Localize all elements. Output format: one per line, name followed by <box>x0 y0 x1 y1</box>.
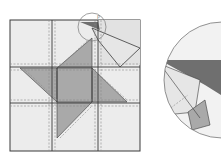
quilt-block: P <box>10 13 140 151</box>
center-square <box>57 68 92 102</box>
quilt-diagram: P <box>0 0 221 157</box>
magnifier-label: P <box>97 14 100 20</box>
